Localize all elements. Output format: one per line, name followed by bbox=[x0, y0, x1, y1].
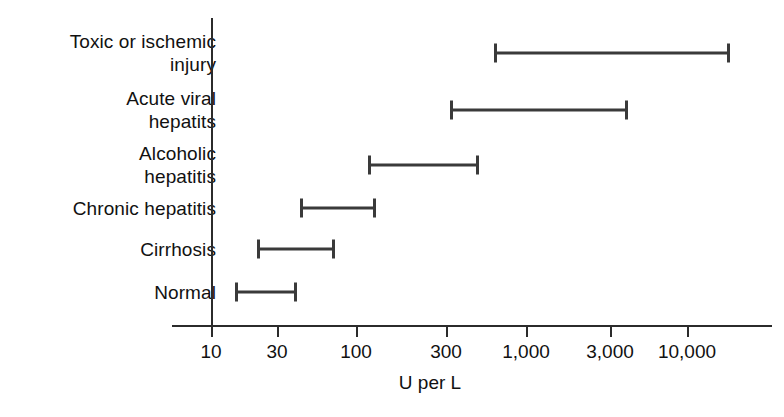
x-axis-tick-label-300: 300 bbox=[430, 341, 462, 363]
x-axis-tick-label-10000: 10,000 bbox=[658, 341, 716, 363]
category-label-alcoholic-hepatitis: Alcoholic hepatitis bbox=[139, 142, 216, 188]
range-cap-low-icon bbox=[368, 156, 371, 175]
category-label-chronic-hepatitis: Chronic hepatitis bbox=[73, 197, 216, 220]
range-cap-high-icon bbox=[294, 283, 297, 302]
category-label-normal: Normal bbox=[154, 281, 216, 304]
range-cap-low-icon bbox=[300, 199, 303, 218]
range-bar-line bbox=[258, 248, 334, 251]
range-bar-line bbox=[301, 207, 375, 210]
range-bar-line bbox=[236, 291, 296, 294]
range-cap-high-icon bbox=[373, 199, 376, 218]
x-axis-tick-10000 bbox=[687, 326, 689, 337]
category-label-cirrhosis: Cirrhosis bbox=[140, 238, 216, 261]
range-cap-low-icon bbox=[235, 283, 238, 302]
category-label-toxic-or-ischemic-injury: Toxic or ischemic injury bbox=[70, 30, 216, 76]
x-axis-tick-label-10: 10 bbox=[200, 341, 221, 363]
range-bar-line bbox=[495, 52, 729, 55]
range-cap-low-icon bbox=[450, 101, 453, 120]
range-cap-high-icon bbox=[476, 156, 479, 175]
x-axis-tick-label-100: 100 bbox=[340, 341, 372, 363]
x-axis-title: U per L bbox=[0, 372, 784, 394]
y-axis-line bbox=[211, 18, 213, 327]
x-axis-tick-300 bbox=[446, 326, 448, 337]
range-cap-high-icon bbox=[727, 44, 730, 63]
x-axis-tick-label-3000: 3,000 bbox=[586, 341, 634, 363]
category-label-acute-viral-hepatits: Acute viral hepatits bbox=[126, 87, 216, 133]
x-axis-tick-100 bbox=[356, 326, 358, 337]
range-cap-low-icon bbox=[257, 240, 260, 259]
range-bar-line bbox=[369, 164, 478, 167]
x-axis-tick-10 bbox=[211, 326, 213, 337]
range-cap-high-icon bbox=[332, 240, 335, 259]
x-axis-tick-1000 bbox=[526, 326, 528, 337]
range-cap-low-icon bbox=[494, 44, 497, 63]
x-axis-tick-3000 bbox=[610, 326, 612, 337]
x-axis-tick-label-1000: 1,000 bbox=[502, 341, 550, 363]
liver-enzyme-range-chart: Toxic or ischemic injury Acute viral hep… bbox=[0, 0, 784, 417]
x-axis-line bbox=[172, 325, 772, 327]
range-bar-line bbox=[451, 109, 627, 112]
x-axis-tick-label-30: 30 bbox=[266, 341, 287, 363]
x-axis-tick-30 bbox=[277, 326, 279, 337]
range-cap-high-icon bbox=[625, 101, 628, 120]
x-axis-title-text: U per L bbox=[399, 372, 461, 393]
